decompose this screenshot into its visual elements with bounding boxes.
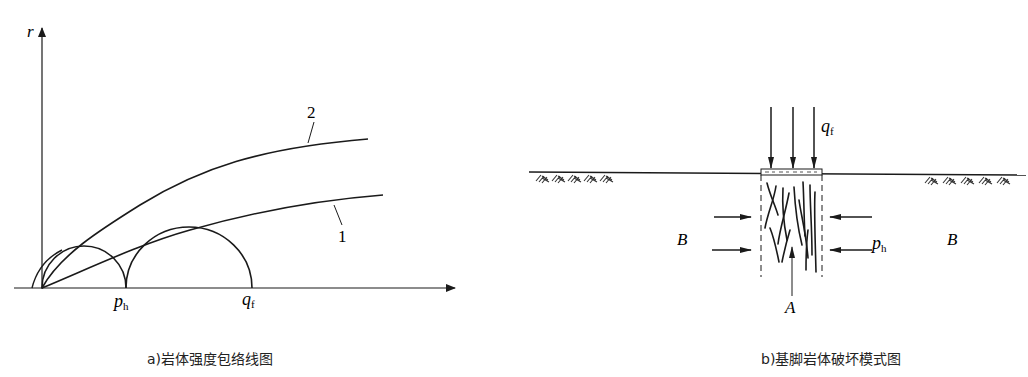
- footing: [761, 169, 822, 175]
- caption-panel-a: a)岩体强度包络线图: [147, 348, 273, 368]
- lateral-pressure-arrows-left: [712, 217, 751, 250]
- mohr-circle-small: [42, 246, 126, 288]
- zone-label-b-left: B: [677, 230, 688, 249]
- lateral-label-ph: ph: [870, 233, 887, 254]
- load-label-qf: qf: [821, 116, 834, 137]
- figure-canvas: r 2 1 ph qf: [0, 0, 1028, 377]
- envelope-curve-2: [42, 139, 368, 288]
- rock-cracks: [765, 182, 816, 272]
- zone-label-b-right: B: [947, 230, 958, 249]
- curve-label-2: 2: [307, 103, 316, 122]
- envelope-curve-1: [42, 195, 383, 288]
- caption-panel-b: b)基脚岩体破坏模式图: [761, 348, 901, 368]
- x-tick-ph: ph: [112, 291, 129, 312]
- leader-line-2: [308, 122, 314, 143]
- curve-label-1: 1: [338, 227, 347, 246]
- zone-label-a: A: [784, 298, 796, 317]
- ground-hatch-left: [536, 175, 613, 183]
- x-tick-qf: qf: [242, 289, 255, 310]
- footing-failure-diagram: qf: [529, 107, 1026, 317]
- vertical-load-arrows: [771, 107, 814, 168]
- y-axis-label: r: [27, 22, 34, 41]
- strength-envelope-chart: r 2 1 ph qf: [14, 22, 455, 312]
- ground-hatch-right: [925, 177, 1010, 185]
- mohr-circle-large: [126, 227, 252, 288]
- leader-line-1: [334, 205, 342, 225]
- lateral-pressure-arrows-right: [830, 217, 872, 250]
